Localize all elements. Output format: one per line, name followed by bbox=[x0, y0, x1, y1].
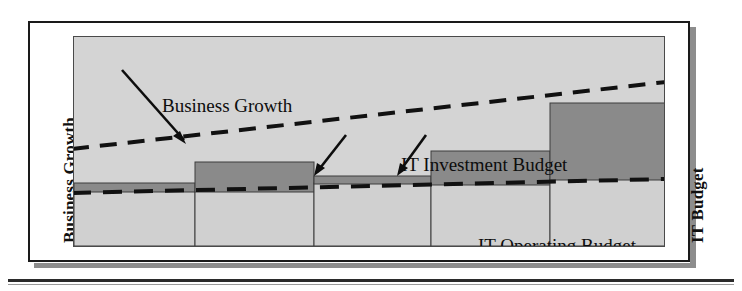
bar-investment-3 bbox=[314, 176, 431, 184]
bottom-divider-rule bbox=[8, 279, 734, 282]
annotation-it-investment-budget: IT Investment Budget bbox=[401, 154, 567, 176]
plot-area: Business Growth IT Investment Budget IT … bbox=[73, 36, 665, 247]
bar-operating-1 bbox=[74, 191, 195, 246]
y-axis-label-it-budget: IT Budget bbox=[688, 167, 708, 243]
frame-shadow-bottom bbox=[34, 263, 696, 268]
annotation-business-growth: Business Growth bbox=[162, 95, 292, 117]
bar-operating-3 bbox=[314, 183, 431, 246]
bottom-divider-rule-shadow bbox=[8, 284, 734, 285]
bar-operating-2 bbox=[195, 191, 314, 246]
annotation-it-operating-budget: IT Operating Budget bbox=[478, 235, 636, 247]
chart-graphics bbox=[74, 37, 664, 246]
arrow-it-investment-left bbox=[314, 135, 346, 176]
figure-container: Business Growth IT Budget bbox=[0, 0, 742, 291]
bar-group-2 bbox=[195, 162, 314, 246]
